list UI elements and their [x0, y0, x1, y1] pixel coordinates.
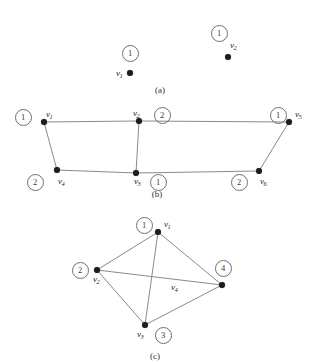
vertex-label-subscript: 3 — [141, 333, 144, 340]
vertex-label-subscript: 3 — [138, 180, 141, 187]
vertex-dot-c-v3 — [142, 322, 148, 328]
circled-number-b-v5: 1 — [270, 107, 287, 124]
vertex-dot-b-v1 — [41, 119, 47, 125]
graph-edge — [158, 232, 222, 285]
vertex-label-c-v2: v2 — [93, 275, 100, 284]
vertex-dot-c-v4 — [219, 282, 225, 288]
vertex-label-b-v1: v1 — [46, 110, 53, 119]
circled-number-c-v2: 2 — [72, 262, 89, 279]
vertex-label-subscript: 4 — [62, 180, 65, 187]
vertex-label-subscript: 1 — [120, 72, 123, 79]
circled-number-b-v4: 2 — [27, 174, 44, 191]
graph-edge — [57, 170, 136, 173]
graph-edge — [136, 171, 259, 173]
vertex-label-a-v1: v1 — [116, 69, 123, 78]
vertex-label-subscript: 4 — [175, 286, 178, 293]
vertex-label-b-v2: v2 — [133, 109, 140, 118]
vertex-dot-c-v2 — [94, 267, 100, 273]
circled-number-c-v4: 4 — [215, 260, 232, 277]
vertex-label-subscript: 5 — [299, 113, 302, 120]
panel-caption-a: (a) — [155, 86, 165, 95]
vertex-label-b-v6: v6 — [260, 177, 267, 186]
vertex-dot-a-v2 — [225, 54, 231, 60]
circled-number-a-v2: 1 — [211, 25, 228, 42]
circled-number-b-v6: 2 — [231, 174, 248, 191]
vertex-dot-c-v1 — [155, 229, 161, 235]
vertex-dot-a-v1 — [127, 70, 133, 76]
figure-root: v11v21(a)v11v22v31v42v51v62(b)v11v22v33v… — [0, 0, 320, 362]
vertex-label-b-v3: v3 — [134, 177, 141, 186]
graph-edge — [97, 232, 158, 270]
graph-edge — [97, 270, 222, 285]
panel-caption-c: (c) — [150, 352, 160, 361]
vertex-label-a-v2: v2 — [230, 41, 237, 50]
vertex-label-c-v3: v3 — [137, 330, 144, 339]
vertex-label-subscript: 6 — [264, 180, 267, 187]
circled-number-b-v1: 1 — [15, 109, 32, 126]
vertex-label-c-v1: v1 — [164, 220, 171, 229]
graph-edge — [145, 285, 222, 325]
vertex-label-subscript: 2 — [137, 112, 140, 119]
circled-number-c-v1: 1 — [136, 217, 153, 234]
vertex-label-subscript: 2 — [234, 44, 237, 51]
vertex-label-subscript: 1 — [50, 113, 53, 120]
vertex-label-subscript: 1 — [168, 223, 171, 230]
vertex-label-b-v5: v5 — [295, 110, 302, 119]
circled-number-a-v1: 1 — [122, 45, 139, 62]
vertex-dot-b-v4 — [54, 167, 60, 173]
panel-caption-b: (b) — [152, 190, 163, 199]
vertex-label-subscript: 2 — [97, 278, 100, 285]
circled-number-b-v3: 1 — [150, 174, 167, 191]
graph-edge — [44, 122, 57, 170]
vertex-label-c-v4: v4 — [171, 283, 178, 292]
vertex-label-b-v4: v4 — [58, 177, 65, 186]
circled-number-c-v3: 3 — [155, 327, 172, 344]
vertex-dot-b-v5 — [286, 119, 292, 125]
graph-edge — [44, 121, 139, 122]
graph-edge — [145, 232, 158, 325]
vertex-dot-b-v6 — [256, 168, 262, 174]
graph-edge — [136, 121, 139, 173]
graph-edge — [97, 270, 145, 325]
graph-edge — [259, 122, 289, 171]
circled-number-b-v2: 2 — [154, 107, 171, 124]
